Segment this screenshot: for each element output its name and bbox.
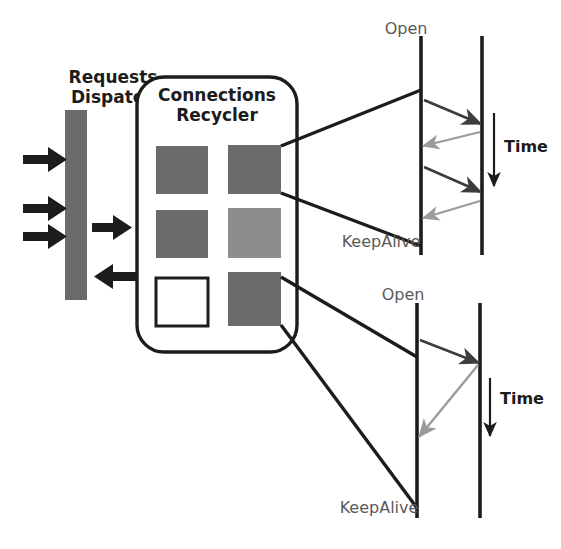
dispatch-inbound-arrows (23, 147, 67, 249)
connection-slot-idle-1[interactable] (228, 208, 281, 258)
dispatch-return-arrow (94, 264, 136, 289)
timeline-top-open-label: Open (385, 19, 428, 38)
timeline-top-response-1 (423, 132, 480, 146)
connection-slot-free-1[interactable] (156, 278, 208, 326)
timeline-bottom-response-1 (419, 365, 478, 437)
connectors-bottom (281, 277, 417, 508)
connection-slot-busy-1[interactable] (156, 146, 208, 194)
timeline-top-response-2 (423, 201, 480, 218)
dispatch-bar (65, 110, 87, 300)
timeline-bottom-request-1 (420, 340, 479, 363)
timeline-top: Open KeepAlive Time (342, 19, 548, 255)
timeline-top-request-2 (424, 167, 481, 192)
diagram-canvas: Requests Dispatch Connections Recycler (0, 0, 561, 549)
inbound-arrow-1 (23, 147, 67, 172)
connector-bottom-lower (281, 325, 417, 508)
inbound-arrow-3 (23, 224, 67, 249)
connection-slot-busy-2[interactable] (228, 145, 281, 194)
timeline-top-keepalive-label: KeepAlive (342, 232, 421, 251)
connectors-top (281, 90, 421, 246)
connector-top-upper (281, 90, 421, 146)
timeline-bottom-keepalive-label: KeepAlive (340, 498, 419, 517)
inbound-arrow-2 (23, 196, 67, 221)
timeline-bottom-open-label: Open (382, 285, 425, 304)
connection-slot-busy-4[interactable] (228, 272, 281, 326)
dispatch-outbound-arrow (92, 215, 132, 240)
connections-recycler-group: Connections Recycler (137, 77, 297, 352)
connection-slot-busy-3[interactable] (156, 210, 208, 258)
timeline-top-request-1 (424, 100, 481, 124)
timeline-bottom-time-label: Time (500, 389, 544, 408)
architecture-diagram: Requests Dispatch Connections Recycler (0, 0, 561, 549)
recycler-label-line1: Connections (158, 85, 276, 105)
recycler-label-line2: Recycler (176, 105, 258, 125)
timeline-top-time-label: Time (504, 137, 548, 156)
timeline-bottom: Open KeepAlive Time (340, 285, 544, 518)
